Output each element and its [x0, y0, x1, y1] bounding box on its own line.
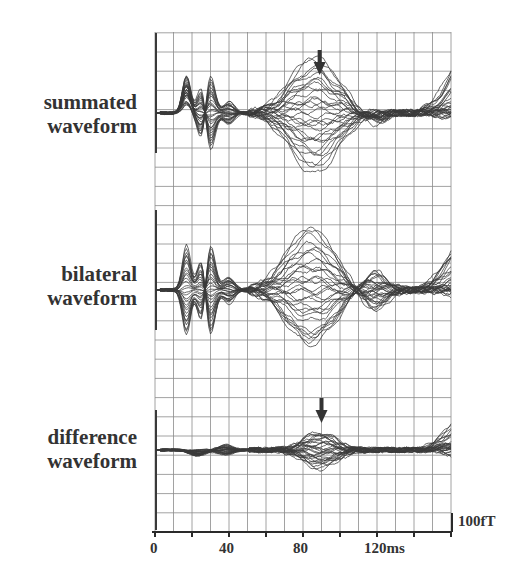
label-line: waveform: [47, 286, 137, 310]
label-line: difference: [47, 425, 137, 449]
label-line: summated: [44, 90, 137, 114]
label-line: waveform: [44, 114, 137, 138]
panel-label-difference: difference waveform: [47, 425, 137, 473]
x-tick-label-120: 120ms: [364, 540, 405, 557]
label-line: bilateral: [47, 262, 137, 286]
scale-bar-label: 100fT: [458, 513, 496, 530]
panel-label-summated: summated waveform: [44, 90, 137, 138]
x-tick-label-80: 80: [293, 540, 308, 557]
x-tick-label-0: 0: [150, 540, 158, 557]
time-axis: [152, 513, 452, 537]
x-tick-label-40: 40: [219, 540, 234, 557]
panel-label-bilateral: bilateral waveform: [47, 262, 137, 310]
label-line: waveform: [47, 449, 137, 473]
